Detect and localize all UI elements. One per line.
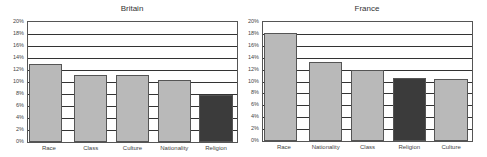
y-tick-label: 2% <box>237 125 259 131</box>
y-tick-label: 0% <box>2 138 24 144</box>
y-tick-label: 0% <box>237 137 259 143</box>
x-tick-label: Religion <box>195 145 237 151</box>
y-tick-label: 14% <box>2 54 24 60</box>
y-tick-label: 4% <box>2 114 24 120</box>
plot-area <box>27 21 238 143</box>
y-tick-label: 16% <box>2 42 24 48</box>
x-tick-label: Nationality <box>305 144 347 150</box>
bar-race <box>264 33 297 141</box>
britain-chart: Britain 0%2%4%6%8%10%12%14%16%18%20%Race… <box>0 0 242 157</box>
x-tick-label: Class <box>347 144 389 150</box>
bar-class <box>351 70 384 141</box>
bar-race <box>29 64 62 142</box>
y-tick-label: 12% <box>237 66 259 72</box>
bar-culture <box>116 75 149 142</box>
x-tick-label: Culture <box>112 145 154 151</box>
y-tick-label: 20% <box>2 18 24 24</box>
x-tick-label: Nationality <box>153 145 195 151</box>
chart-title: Britain <box>27 4 237 13</box>
y-tick-label: 10% <box>237 78 259 84</box>
bar-class <box>74 75 107 142</box>
y-tick-label: 18% <box>2 30 24 36</box>
france-chart: France 0%2%4%6%8%10%12%14%16%18%20%RaceN… <box>242 0 487 157</box>
y-tick-label: 10% <box>2 78 24 84</box>
plot-area <box>262 21 473 142</box>
gridline <box>28 34 237 35</box>
x-tick-label: Culture <box>430 144 472 150</box>
y-tick-label: 16% <box>237 42 259 48</box>
bar-culture <box>434 79 467 141</box>
y-tick-label: 8% <box>237 89 259 95</box>
bar-religion <box>393 78 426 141</box>
y-tick-label: 6% <box>2 102 24 108</box>
gridline <box>28 46 237 47</box>
bar-nationality <box>309 62 342 141</box>
bar-nationality <box>158 80 191 142</box>
x-tick-label: Class <box>70 145 112 151</box>
x-tick-label: Race <box>28 145 70 151</box>
y-tick-label: 6% <box>237 101 259 107</box>
y-tick-label: 20% <box>237 18 259 24</box>
y-tick-label: 12% <box>2 66 24 72</box>
y-tick-label: 18% <box>237 30 259 36</box>
x-tick-label: Race <box>263 144 305 150</box>
x-tick-label: Religion <box>388 144 430 150</box>
y-tick-label: 14% <box>237 54 259 60</box>
bar-religion <box>199 95 232 142</box>
gridline <box>28 58 237 59</box>
chart-title: France <box>262 4 472 13</box>
y-tick-label: 8% <box>2 90 24 96</box>
y-tick-label: 2% <box>2 126 24 132</box>
y-tick-label: 4% <box>237 113 259 119</box>
